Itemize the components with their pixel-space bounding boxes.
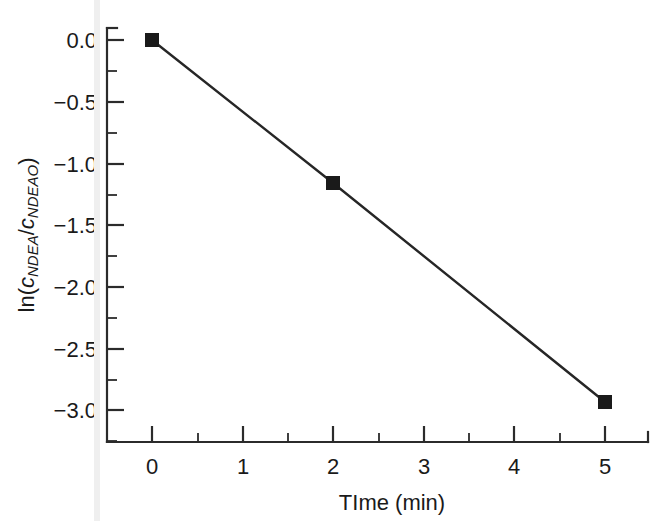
y-axis-title: ln(cNDEA/cNDEAO) [14,158,41,313]
y-title-numerator-var: c [14,277,39,288]
y-tick-label: −1.0 [54,152,97,177]
y-tick-label: −2.5 [54,337,97,362]
y-title-denominator-subscript: NDEAO [24,165,41,219]
data-point-marker [327,177,340,190]
x-tick-label: 0 [146,454,158,479]
x-tick-label: 4 [508,454,520,479]
y-axis-tick-labels: 0.0 −0.5 −1.0 −1.5 −2.0 −2.5 −3.0 [54,28,97,423]
data-point-marker [599,396,612,409]
y-tick-label: −1.5 [54,213,97,238]
y-title-prefix: ln( [14,287,39,312]
y-axis-major-ticks [107,40,124,410]
y-title-denominator-var: c [14,218,39,229]
kinetics-line-chart: 0.0 −0.5 −1.0 −1.5 −2.0 −2.5 −3.0 [0,0,659,521]
y-axis-minor-ticks [107,71,117,441]
svg-text:ln(cNDEA/cNDEAO): ln(cNDEA/cNDEAO) [14,158,41,313]
x-tick-label: 2 [327,454,339,479]
x-axis-title: TIme (min) [339,490,445,515]
data-point-marker [146,34,159,47]
y-tick-label: −2.0 [54,275,97,300]
y-title-numerator-subscript: NDEA [24,235,41,277]
x-tick-label: 5 [599,454,611,479]
data-series-ndea [146,34,612,409]
y-tick-label: −3.0 [54,398,97,423]
x-tick-label: 3 [418,454,430,479]
y-tick-label: −0.5 [54,90,97,115]
y-title-suffix: ) [14,158,39,165]
series-line [152,40,605,402]
x-axis-tick-labels: 0 1 2 3 4 5 [146,454,611,479]
axes [107,28,648,442]
y-tick-label: 0.0 [66,28,97,53]
x-tick-label: 1 [237,454,249,479]
chart-figure: 0.0 −0.5 −1.0 −1.5 −2.0 −2.5 −3.0 [0,0,659,521]
